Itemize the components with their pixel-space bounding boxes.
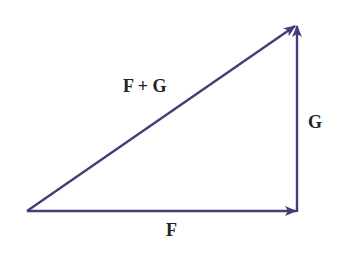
label-g: G xyxy=(308,113,322,131)
label-f: F xyxy=(166,221,177,239)
vector-diagram xyxy=(0,0,340,253)
label-f-plus-g: F + G xyxy=(123,77,167,95)
vector-f-plus-g-arrow xyxy=(27,26,295,211)
